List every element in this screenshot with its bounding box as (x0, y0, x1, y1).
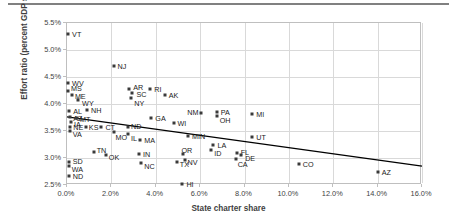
data-point[interactable] (200, 111, 203, 114)
x-tick-label: 16.0% (391, 189, 451, 198)
data-point-label: ID (214, 149, 221, 158)
data-point-label: NC (144, 161, 154, 170)
data-point[interactable] (138, 152, 141, 155)
data-point[interactable] (163, 94, 166, 97)
data-point[interactable] (69, 125, 72, 128)
data-point[interactable] (212, 143, 215, 146)
y-tick-mark (63, 76, 66, 77)
data-point-label: MA (144, 135, 155, 144)
y-tick-label: 3.0% (1, 153, 61, 162)
x-axis-title: State charter share (0, 204, 457, 213)
data-point-label: SC (136, 89, 146, 98)
data-point-label: NJ (118, 62, 127, 71)
data-point[interactable] (104, 153, 107, 156)
y-tick-mark (63, 130, 66, 131)
data-point-label: OH (220, 116, 231, 125)
y-tick-label: 5.0% (1, 45, 61, 54)
data-point-label: AK (169, 91, 179, 100)
chart-root: Effort ratio (percent GDP state) State c… (0, 0, 457, 223)
data-point[interactable] (69, 115, 72, 118)
data-point[interactable] (67, 160, 70, 163)
data-point[interactable] (139, 138, 142, 141)
data-point[interactable] (215, 115, 218, 118)
data-point[interactable] (149, 87, 152, 90)
x-tick-mark (110, 184, 111, 187)
y-tick-mark (63, 103, 66, 104)
data-point[interactable] (131, 91, 134, 94)
y-tick-mark (63, 184, 66, 185)
data-point[interactable] (77, 99, 80, 102)
data-point[interactable] (67, 90, 70, 93)
x-tick-mark (421, 184, 422, 187)
data-point[interactable] (181, 183, 184, 186)
x-tick-mark (199, 184, 200, 187)
x-gridline (422, 23, 423, 183)
plot-area: VTNJWVMSMEWYARSCNYRIAKALNHAZMTIANEVAKSCT… (66, 22, 421, 184)
data-point-label: MIN (192, 132, 205, 141)
data-point-label: CA (238, 160, 248, 169)
data-point-label: HI (186, 180, 193, 189)
y-tick-label: 2.5% (1, 180, 61, 189)
data-point[interactable] (297, 163, 300, 166)
data-point[interactable] (175, 160, 178, 163)
data-point-label: NY (134, 98, 144, 107)
data-point[interactable] (183, 158, 186, 161)
data-point[interactable] (210, 149, 213, 152)
data-point[interactable] (85, 109, 88, 112)
data-point[interactable] (70, 93, 73, 96)
data-point-label: ND (73, 172, 83, 181)
data-point-label: OK (109, 152, 119, 161)
x-tick-mark (332, 184, 333, 187)
data-point[interactable] (68, 130, 71, 133)
data-point[interactable] (67, 175, 70, 178)
data-point-label: OR (181, 146, 192, 155)
data-point[interactable] (235, 151, 238, 154)
y-tick-mark (63, 22, 66, 23)
data-point[interactable] (376, 170, 379, 173)
data-point[interactable] (251, 113, 254, 116)
data-point[interactable] (67, 82, 70, 85)
x-tick-mark (244, 184, 245, 187)
data-point[interactable] (92, 151, 95, 154)
data-point-label: WI (178, 118, 187, 127)
data-point[interactable] (172, 121, 175, 124)
data-point[interactable] (186, 135, 189, 138)
x-tick-mark (377, 184, 378, 187)
data-point[interactable] (127, 132, 130, 135)
data-point[interactable] (84, 125, 87, 128)
y-tick-label: 3.5% (1, 126, 61, 135)
data-point-label: IL (131, 133, 137, 142)
y-tick-label: 5.5% (1, 18, 61, 27)
data-point-label: UT (256, 133, 266, 142)
data-point-label: NV (188, 157, 198, 166)
data-point-label: IN (143, 149, 150, 158)
data-point-label: CO (303, 160, 314, 169)
x-tick-mark (66, 184, 67, 187)
data-point-label: MO (116, 133, 128, 142)
data-point[interactable] (251, 136, 254, 139)
data-point[interactable] (127, 126, 130, 129)
data-point[interactable] (75, 116, 78, 119)
data-point-label: VT (72, 29, 81, 38)
data-point[interactable] (130, 96, 133, 99)
data-point[interactable] (240, 154, 243, 157)
data-point-label: PA (221, 107, 230, 116)
data-point[interactable] (67, 164, 70, 167)
data-point[interactable] (215, 110, 218, 113)
data-point-label: NM (187, 107, 198, 116)
data-point[interactable] (150, 117, 153, 120)
x-tick-mark (288, 184, 289, 187)
data-point[interactable] (68, 110, 71, 113)
data-point[interactable] (100, 125, 103, 128)
y-tick-mark (63, 157, 66, 158)
data-point-label: MI (256, 110, 264, 119)
data-point[interactable] (140, 161, 143, 164)
data-point[interactable] (112, 65, 115, 68)
data-point[interactable] (67, 32, 70, 35)
data-point-label: GA (155, 114, 165, 123)
data-point-label: LA (217, 140, 226, 149)
data-point-label: KS (89, 122, 99, 131)
data-point-label: ND (131, 122, 141, 131)
data-point[interactable] (69, 121, 72, 124)
x-tick-mark (155, 184, 156, 187)
